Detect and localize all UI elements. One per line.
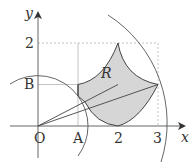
- tick-label-b: B: [24, 76, 34, 92]
- tick-label-a: A: [72, 130, 84, 146]
- tick-label-x2: 2: [114, 130, 123, 146]
- region-label: R: [100, 65, 112, 81]
- origin-label: O: [34, 130, 45, 146]
- coordinate-diagram: y x O A 2 3 B 2 R: [0, 0, 196, 168]
- y-axis-label: y: [24, 5, 34, 21]
- x-axis-label: x: [181, 129, 189, 145]
- tick-label-y2: 2: [25, 35, 34, 51]
- tick-label-x3: 3: [153, 130, 162, 146]
